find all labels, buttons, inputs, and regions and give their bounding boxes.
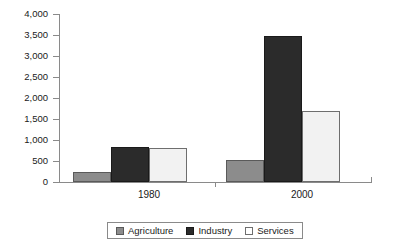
legend-label-services: Services bbox=[257, 226, 293, 236]
legend-item-industry: Industry bbox=[186, 226, 232, 236]
y-tick-label-2000: 2,000 bbox=[0, 93, 48, 103]
y-tick-label-500: 500 bbox=[0, 156, 48, 166]
legend-label-agriculture: Agriculture bbox=[128, 226, 173, 236]
bar-chart: 4,000 3,500 3,000 2,500 2,000 1,500 1,00… bbox=[0, 0, 394, 252]
legend-label-industry: Industry bbox=[198, 226, 232, 236]
services-swatch-icon bbox=[245, 227, 253, 235]
category-separator-tick bbox=[215, 182, 216, 187]
plot-area: 4,000 3,500 3,000 2,500 2,000 1,500 1,00… bbox=[0, 0, 394, 210]
y-tick-2000 bbox=[53, 98, 59, 99]
legend-item-services: Services bbox=[245, 226, 293, 236]
y-tick-label-3000: 3,000 bbox=[0, 51, 48, 61]
y-tick-label-1500: 1,500 bbox=[0, 114, 48, 124]
bar-2000-agriculture bbox=[226, 160, 264, 182]
y-tick-label-0: 0 bbox=[0, 177, 48, 187]
x-axis-end-tick bbox=[371, 177, 372, 183]
y-tick-label-3500: 3,500 bbox=[0, 30, 48, 40]
y-tick-2500 bbox=[53, 77, 59, 78]
legend: Agriculture Industry Services bbox=[107, 222, 303, 239]
y-tick-label-2500: 2,500 bbox=[0, 72, 48, 82]
bar-2000-industry bbox=[264, 36, 302, 182]
industry-swatch-icon bbox=[186, 227, 194, 235]
legend-item-agriculture: Agriculture bbox=[116, 226, 173, 236]
y-tick-500 bbox=[53, 161, 59, 162]
y-tick-4000 bbox=[53, 14, 59, 15]
y-axis-line bbox=[59, 14, 60, 182]
category-label-1980: 1980 bbox=[111, 189, 187, 201]
y-tick-3500 bbox=[53, 35, 59, 36]
y-tick-0 bbox=[53, 182, 59, 183]
bar-1980-agriculture bbox=[73, 172, 111, 182]
y-tick-label-1000: 1,000 bbox=[0, 135, 48, 145]
agriculture-swatch-icon bbox=[116, 227, 124, 235]
bar-1980-services bbox=[149, 148, 187, 182]
bar-1980-industry bbox=[111, 147, 149, 182]
category-label-2000: 2000 bbox=[264, 189, 340, 201]
y-tick-1500 bbox=[53, 119, 59, 120]
y-tick-1000 bbox=[53, 140, 59, 141]
bar-2000-services bbox=[302, 111, 340, 182]
y-tick-3000 bbox=[53, 56, 59, 57]
y-tick-label-4000: 4,000 bbox=[0, 9, 48, 19]
